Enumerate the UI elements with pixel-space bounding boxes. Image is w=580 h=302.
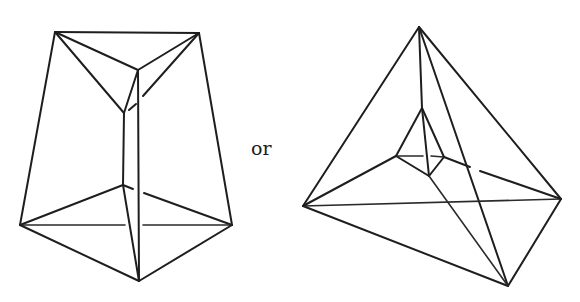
- right-polyhedron-figure: [303, 27, 561, 286]
- diagram-canvas: [0, 0, 580, 302]
- left-polyhedron-figure: [20, 32, 232, 281]
- or-label: or: [251, 139, 272, 158]
